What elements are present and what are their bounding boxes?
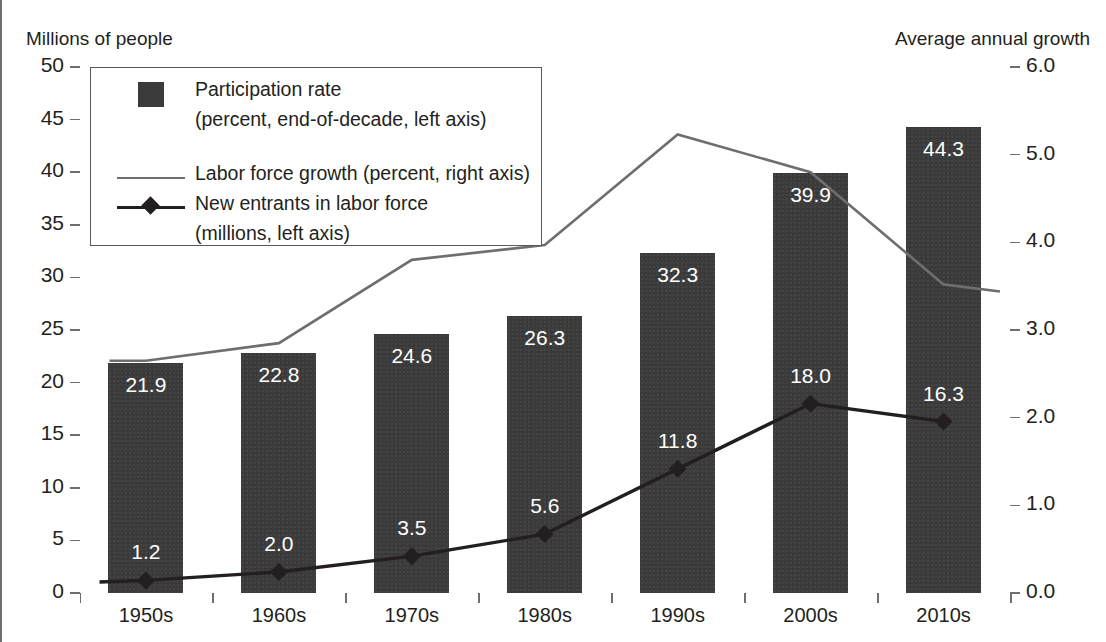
x-axis-label: 2010s: [878, 604, 1010, 627]
x-tick: [478, 593, 480, 603]
legend-sublabel: (percent, end-of-decade, left axis): [195, 108, 487, 131]
new-entrants-marker[interactable]: [270, 563, 288, 581]
x-axis-label: 1950s: [80, 604, 212, 627]
x-axis-label: 1990s: [612, 604, 744, 627]
x-tick: [877, 593, 879, 603]
x-axis-label: 1960s: [213, 604, 345, 627]
legend-label: New entrants in labor force: [195, 192, 428, 215]
new-entrants-markers: [137, 395, 953, 590]
new-entrants-value-label: 2.0: [234, 532, 324, 556]
x-axis-label: 1970s: [346, 604, 478, 627]
new-entrants-line: [100, 404, 944, 582]
bar-value-label: 22.8: [229, 363, 329, 387]
new-entrants-marker[interactable]: [935, 413, 953, 431]
new-entrants-value-label: 16.3: [899, 382, 989, 406]
bar-value-label: 26.3: [495, 326, 595, 350]
bar-value-label: 24.6: [362, 344, 462, 368]
legend-swatch-icon: [138, 82, 164, 107]
bar-value-label: 44.3: [894, 137, 994, 161]
new-entrants-marker[interactable]: [137, 571, 155, 589]
bar-value-label: 39.9: [761, 183, 861, 207]
x-tick: [1010, 593, 1012, 603]
legend-diamond-icon: [141, 197, 159, 215]
legend-label: Participation rate: [195, 78, 341, 101]
chart-figure: Millions of people Average annual growth…: [0, 0, 1106, 642]
new-entrants-value-label: 11.8: [633, 429, 723, 453]
new-entrants-marker[interactable]: [536, 525, 554, 543]
x-tick: [744, 593, 746, 603]
legend-label: Labor force growth (percent, right axis): [195, 162, 530, 185]
x-tick: [80, 593, 82, 603]
new-entrants-value-label: 1.2: [101, 540, 191, 564]
new-entrants-marker[interactable]: [802, 395, 820, 413]
x-tick: [345, 593, 347, 603]
new-entrants-value-label: 3.5: [367, 516, 457, 540]
x-axis-label: 2000s: [745, 604, 877, 627]
bar-value-label: 32.3: [628, 263, 728, 287]
new-entrants-value-label: 5.6: [500, 494, 590, 518]
new-entrants-marker[interactable]: [669, 460, 687, 478]
legend-sublabel: (millions, left axis): [195, 222, 350, 245]
x-tick: [212, 593, 214, 603]
legend-line-icon: [117, 177, 185, 179]
new-entrants-marker[interactable]: [403, 547, 421, 565]
x-tick: [611, 593, 613, 603]
chart-legend: Participation rate(percent, end-of-decad…: [90, 67, 542, 246]
x-axis-label: 1980s: [479, 604, 611, 627]
legend-diamond-line-icon: [117, 206, 185, 209]
bar-value-label: 21.9: [96, 373, 196, 397]
new-entrants-value-label: 18.0: [766, 364, 856, 388]
